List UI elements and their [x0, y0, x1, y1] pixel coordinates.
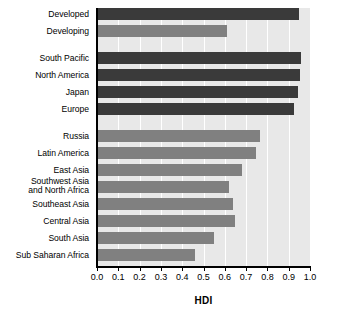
bar	[97, 232, 214, 244]
x-axis-tick	[118, 267, 119, 271]
x-axis-tick	[246, 267, 247, 271]
category-label: Sub Saharan Africa	[0, 251, 89, 260]
bar	[97, 25, 227, 37]
category-label: South Pacific	[0, 54, 89, 63]
x-axis-tick	[140, 267, 141, 271]
bar	[97, 164, 242, 176]
x-axis-tick	[182, 267, 183, 271]
bar	[97, 69, 300, 81]
bar	[97, 103, 294, 115]
category-label: Russia	[0, 132, 89, 141]
x-axis-tick	[204, 267, 205, 271]
bar	[97, 8, 299, 20]
bar	[97, 86, 298, 98]
category-label: Southeast Asia	[0, 200, 89, 209]
x-axis-tick	[267, 267, 268, 271]
bar	[97, 130, 260, 142]
plot-area	[97, 8, 310, 266]
category-label: Southwest Asia and North Africa	[0, 177, 89, 195]
category-label: Latin America	[0, 149, 89, 158]
x-axis-tick	[310, 267, 311, 271]
bar	[97, 198, 233, 210]
x-axis-tick	[97, 267, 98, 271]
x-axis-tick	[289, 267, 290, 271]
category-label: Europe	[0, 105, 89, 114]
bar	[97, 181, 229, 193]
x-axis-title: HDI	[97, 295, 310, 306]
hdi-bar-chart: DevelopedDevelopingSouth PacificNorth Am…	[0, 0, 339, 319]
category-label: Central Asia	[0, 217, 89, 226]
bar	[97, 147, 256, 159]
gridline	[289, 8, 290, 266]
category-label: Japan	[0, 88, 89, 97]
bar	[97, 215, 235, 227]
category-label: North America	[0, 71, 89, 80]
x-axis-tick-label: 1.0	[297, 272, 323, 282]
category-label: East Asia	[0, 166, 89, 175]
bar	[97, 52, 301, 64]
y-axis-spine	[96, 8, 98, 266]
category-label-column: DevelopedDevelopingSouth PacificNorth Am…	[0, 8, 93, 266]
category-label: Developing	[0, 27, 89, 36]
x-axis-tick	[161, 267, 162, 271]
x-axis-tick	[225, 267, 226, 271]
category-label: South Asia	[0, 234, 89, 243]
bar	[97, 249, 195, 261]
category-label: Developed	[0, 10, 89, 19]
gridline	[267, 8, 268, 266]
gridline	[310, 8, 311, 266]
